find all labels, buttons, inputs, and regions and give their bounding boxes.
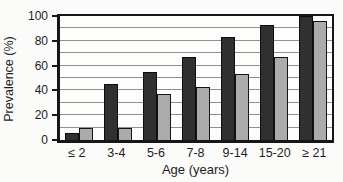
bar-series-dark	[104, 84, 118, 140]
bar-group	[60, 16, 99, 140]
y-tick-label: 80	[35, 34, 48, 48]
y-tick-label: 40	[35, 83, 48, 97]
bar-series-light	[313, 21, 327, 140]
x-tick-labels: ≤ 23-45-67-89-1415-20≥ 21	[57, 146, 334, 160]
bar-series-dark	[260, 25, 274, 140]
bar-series-light	[235, 74, 249, 140]
x-axis-title: Age (years)	[57, 162, 334, 177]
bar-series-dark	[221, 37, 235, 140]
bar-group	[254, 16, 293, 140]
x-tick-label: ≤ 2	[57, 146, 97, 160]
bar-group	[99, 16, 138, 140]
bar-chart-figure: Prevalence (%) 020406080100 ≤ 23-45-67-8…	[0, 0, 343, 182]
y-axis-ticks: 020406080100	[0, 16, 57, 140]
bar-series-dark	[299, 16, 313, 140]
plot-area	[57, 14, 334, 143]
x-tick-label: 15-20	[255, 146, 295, 160]
bar-series-light	[157, 94, 171, 140]
x-tick-label: 7-8	[176, 146, 216, 160]
bar-group	[177, 16, 216, 140]
bar-group	[215, 16, 254, 140]
y-tick-label: 20	[35, 108, 48, 122]
bar-series-dark	[143, 72, 157, 140]
bar-series-light	[118, 128, 132, 140]
x-tick-label: 5-6	[136, 146, 176, 160]
x-tick-label: ≥ 21	[294, 146, 334, 160]
y-tick-label: 0	[41, 133, 48, 147]
y-tick-label: 100	[28, 9, 48, 23]
bar-groups	[60, 16, 332, 140]
bar-series-light	[274, 57, 288, 140]
bar-series-dark	[65, 133, 79, 140]
bar-group	[293, 16, 332, 140]
bar-group	[138, 16, 177, 140]
bar-series-dark	[182, 57, 196, 140]
x-tick-label: 3-4	[97, 146, 137, 160]
y-tick-label: 60	[35, 59, 48, 73]
bar-series-light	[79, 128, 93, 140]
x-tick-label: 9-14	[215, 146, 255, 160]
bar-series-light	[196, 87, 210, 140]
